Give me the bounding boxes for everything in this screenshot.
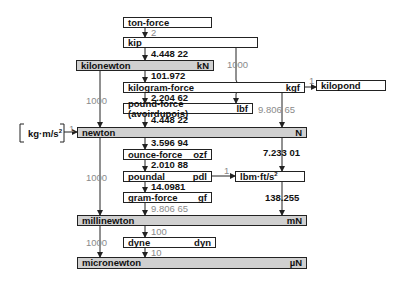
box-millinewton: millinewton mN (77, 215, 307, 226)
factor-kgf-N: 9.806 65 (258, 105, 295, 115)
factor-kip-kN: 4.448 22 (151, 49, 188, 59)
factor-kip-kgf: 1000 (227, 60, 248, 70)
factor-N-ozf: 3.596 94 (151, 138, 188, 148)
unit-symbol: gf (198, 193, 207, 203)
factor-kN-N: 1000 (86, 96, 107, 106)
factor-dyn-uN: 10 (151, 248, 162, 258)
unit-symbol: kgf (286, 83, 300, 93)
unit-name: kilonewton (81, 61, 131, 71)
unit-name: kip (128, 38, 142, 48)
box-kilonewton: kilonewton kN (76, 60, 214, 71)
unit-symbol: pdl (193, 172, 207, 182)
unit-name: lbm·ft/s2 (240, 171, 278, 182)
unit-symbol: lbf (236, 104, 248, 114)
factor-mN-dyn: 100 (151, 227, 167, 237)
factor-kN-kgf: 101.972 (151, 71, 185, 81)
box-newton: newton N (77, 127, 307, 138)
unit-name: kilopond (321, 81, 361, 91)
box-ton-force: ton-force (123, 17, 212, 28)
unit-name: ton-force (128, 18, 169, 28)
factor-mN-uN: 1000 (86, 238, 107, 248)
factor-ton-kip: 2 (151, 28, 156, 38)
label-kg-m-s2: kg·m/s2 (28, 128, 62, 139)
unit-name: ounce-force (128, 150, 182, 160)
factor-pdl-gf: 14.0981 (151, 182, 185, 192)
factor-kgms2-N: 1 (69, 124, 74, 134)
force-unit-conversion-diagram: ton-force kip kilonewton kN kilogram-for… (0, 0, 405, 284)
unit-symbol: ozf (193, 150, 207, 160)
box-dyne: dyne dyn (123, 237, 216, 248)
factor-N-mN: 1000 (86, 173, 107, 183)
unit-name: poundal (128, 172, 165, 182)
unit-symbol: µN (290, 258, 302, 268)
unit-name: newton (82, 128, 115, 138)
factor-kgf-lbf: 2.204 62 (151, 93, 188, 103)
box-kilopond: kilopond (316, 80, 386, 91)
unit-symbol: mN (287, 216, 302, 226)
unit-symbol: N (295, 128, 302, 138)
factor-pdl-lbm: 1 (224, 166, 229, 176)
unit-name: micronewton (82, 258, 141, 268)
unit-symbol: kN (197, 61, 209, 71)
box-gram-force: gram-force gf (123, 192, 212, 203)
box-micronewton: micronewton µN (77, 257, 307, 269)
unit-name: kilogram-force (128, 83, 194, 93)
unit-symbol: dyn (194, 238, 211, 248)
unit-name: gram-force (128, 193, 178, 203)
factor-lbm-mN: 138.255 (265, 193, 299, 203)
factor-lbf-N: 4.448 22 (151, 115, 188, 125)
factor-ozf-pdl: 2.010 88 (151, 160, 188, 170)
box-pound-force: pound-force (avoirdupois) lbf (123, 103, 253, 114)
box-kip: kip (123, 37, 258, 48)
factor-gf-mN: 9.806 65 (151, 204, 188, 214)
unit-name: dyne (128, 238, 150, 248)
box-lbm-ft-s2: lbm·ft/s2 (235, 171, 305, 182)
factor-N-lbmfts2: 7.233 01 (263, 148, 300, 158)
unit-name: millinewton (82, 216, 134, 226)
factor-kgf-kilopond: 1 (309, 76, 314, 86)
